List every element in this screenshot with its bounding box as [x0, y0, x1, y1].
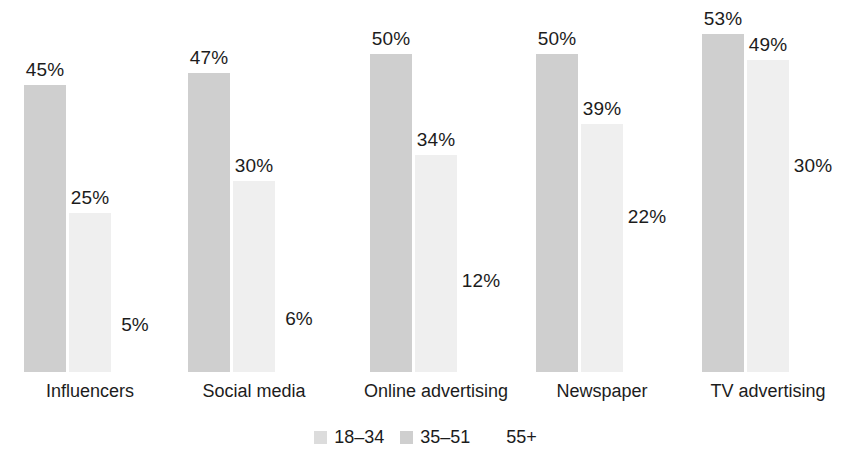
legend-item[interactable]: 18–34 [314, 427, 384, 447]
bar-group: 47%30%6% [188, 0, 318, 372]
category-label-4: Newspaper [556, 378, 647, 404]
bar[interactable]: 45% [24, 85, 66, 372]
legend-label: 35–51 [420, 427, 470, 447]
bar-fill [415, 155, 457, 372]
category-label-5: TV advertising [710, 378, 825, 404]
bar-fill [581, 124, 623, 372]
plot-area: 45%25%5%47%30%6%50%34%12%50%39%22%53%49%… [0, 0, 851, 372]
bar[interactable]: 30% [233, 181, 275, 372]
bar-group: 53%49%30% [702, 0, 832, 372]
bar-fill [24, 85, 66, 372]
bar[interactable]: 5% [114, 340, 156, 372]
bar-value-label: 50% [372, 29, 410, 48]
bar-fill [792, 181, 834, 372]
bar[interactable]: 34% [415, 155, 457, 372]
bar-fill [278, 334, 320, 372]
bar-value-label: 25% [71, 188, 109, 207]
category-label-2: Social media [202, 378, 305, 404]
bar-value-label: 49% [749, 35, 787, 54]
category-axis: InfluencersSocial mediaOnline advertisin… [0, 378, 851, 412]
bar-fill [702, 34, 744, 372]
legend-label: 18–34 [334, 427, 384, 447]
legend-label: 55+ [506, 427, 537, 447]
bar-fill [188, 73, 230, 372]
chart-legend: 18–3435–5155+ [0, 424, 851, 450]
bar-value-label: 50% [538, 29, 576, 48]
bar[interactable]: 50% [370, 54, 412, 373]
bar-group: 50%39%22% [536, 0, 666, 372]
bar[interactable]: 25% [69, 213, 111, 372]
bar-fill [69, 213, 111, 372]
bar[interactable]: 49% [747, 60, 789, 372]
bar-value-label: 5% [121, 315, 149, 334]
bar[interactable]: 50% [536, 54, 578, 373]
bar-value-label: 39% [583, 99, 621, 118]
bar-value-label: 12% [462, 271, 500, 290]
bar[interactable]: 53% [702, 34, 744, 372]
bar-fill [747, 60, 789, 372]
bar-value-label: 30% [794, 156, 832, 175]
bar-group: 50%34%12% [370, 0, 500, 372]
bar[interactable]: 47% [188, 73, 230, 372]
bar-fill [233, 181, 275, 372]
bar-value-label: 22% [628, 207, 666, 226]
legend-swatch-icon [314, 431, 327, 444]
bar[interactable]: 6% [278, 334, 320, 372]
category-label-3: Online advertising [364, 378, 508, 404]
bar[interactable]: 12% [460, 296, 502, 372]
bar[interactable]: 39% [581, 124, 623, 372]
legend-swatch-icon [400, 431, 413, 444]
bar-fill [114, 340, 156, 372]
bar-fill [370, 54, 412, 373]
bar[interactable]: 22% [626, 232, 668, 372]
bar-fill [536, 54, 578, 373]
bar-group: 45%25%5% [24, 0, 154, 372]
legend-swatch-icon [486, 431, 499, 444]
bar-value-label: 47% [190, 48, 228, 67]
bar-value-label: 53% [704, 9, 742, 28]
legend-item[interactable]: 55+ [486, 427, 537, 447]
bar-fill [460, 296, 502, 372]
bar[interactable]: 30% [792, 181, 834, 372]
bar-value-label: 45% [26, 60, 64, 79]
bar-chart: 45%25%5%47%30%6%50%34%12%50%39%22%53%49%… [0, 0, 851, 452]
bar-fill [626, 232, 668, 372]
bar-value-label: 6% [285, 309, 313, 328]
category-label-1: Influencers [46, 378, 134, 404]
legend-item[interactable]: 35–51 [400, 427, 470, 447]
bar-value-label: 30% [235, 156, 273, 175]
bar-value-label: 34% [417, 130, 455, 149]
